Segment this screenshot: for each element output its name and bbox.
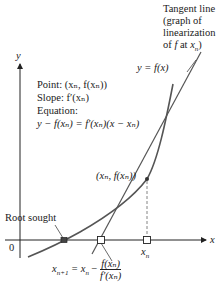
slope-text: Slope: f′(xₙ) bbox=[37, 92, 89, 104]
root-pointer bbox=[55, 225, 63, 238]
tangent-line bbox=[92, 52, 201, 254]
tangent-title-line-2: (graph of bbox=[163, 15, 215, 27]
origin-label: 0 bbox=[9, 242, 14, 254]
tangent-title-line-1: Tangent line bbox=[163, 3, 215, 15]
newton-formula: xn+1 = xn − f(xₙ)f′(xₙ) bbox=[52, 258, 121, 281]
equation-text: y − f(xₙ) = f′(xₙ)(x − xₙ) bbox=[37, 118, 139, 130]
equation-heading: Equation: bbox=[37, 105, 78, 117]
tangent-title-line-4: of f at xn) bbox=[163, 39, 215, 55]
root-sought-marker bbox=[61, 238, 67, 243]
tangent-line-label: Tangent line (graph of linearization of … bbox=[163, 3, 215, 55]
tangency-point bbox=[145, 177, 149, 181]
x-axis-label: x bbox=[210, 234, 215, 246]
root-sought-label: Root sought bbox=[5, 212, 56, 224]
y-axis-label: y bbox=[16, 50, 21, 62]
curve-label: y = f(x) bbox=[137, 62, 169, 74]
x-n-plus-1-marker bbox=[98, 237, 105, 244]
point-text: Point: (xₙ, f(xₙ)) bbox=[37, 79, 107, 91]
x-n-marker bbox=[144, 237, 151, 244]
tangent-title-line-3: linearization bbox=[163, 27, 215, 39]
tangency-point-label: (xₙ, f(xₙ)) bbox=[96, 170, 136, 182]
x-n-label: xn bbox=[141, 246, 149, 262]
newton-fraction: f(xₙ)f′(xₙ) bbox=[100, 258, 121, 281]
